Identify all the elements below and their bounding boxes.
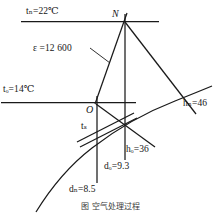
figure-caption: 图 空气处理过程: [0, 203, 221, 211]
label-hn-text: hₙ=46: [183, 98, 207, 108]
label-tn: tₙ=22℃: [26, 7, 59, 17]
label-ts: tₛ: [81, 122, 87, 132]
label-ts-text: tₛ: [81, 121, 87, 131]
label-hn: hₙ=46: [183, 99, 207, 109]
label-epsilon: ε =12 600: [33, 44, 72, 54]
label-do: dₒ=9.3: [104, 162, 129, 172]
label-to-text: tₒ=14℃: [3, 84, 34, 94]
point-label-o-text: O: [86, 104, 93, 115]
figure-caption-text: 图 空气处理过程: [81, 202, 139, 211]
label-dn-text: dₙ=8.5: [69, 184, 96, 194]
label-epsilon-text: ε =12 600: [33, 43, 72, 53]
label-ho: hₒ=36: [126, 145, 149, 155]
epsilon-leader-line: [90, 48, 110, 63]
label-dn: dₙ=8.5: [69, 185, 96, 195]
label-tn-text: tₙ=22℃: [26, 6, 59, 16]
label-do-text: dₒ=9.3: [104, 161, 129, 171]
point-label-n: N: [112, 9, 119, 19]
point-label-o: O: [86, 105, 93, 115]
point-label-n-text: N: [112, 8, 119, 19]
figure-container: tₙ=22℃ ε =12 600 tₒ=14℃ hₙ=46 hₒ=36 dₒ=9…: [0, 0, 221, 215]
epsilon-process-ray: [95, 13, 127, 104]
label-ho-text: hₒ=36: [126, 144, 149, 154]
label-to: tₒ=14℃: [3, 85, 34, 95]
isotherm-ts-line-inner: [80, 118, 137, 147]
